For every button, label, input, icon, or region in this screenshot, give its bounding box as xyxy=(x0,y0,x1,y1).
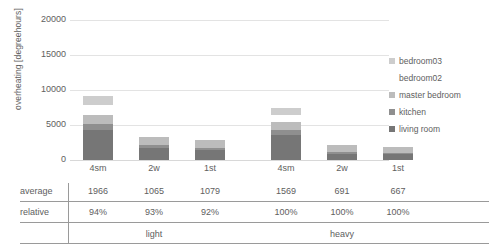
legend: bedroom03bedroom02master bedroomkitchenl… xyxy=(389,52,489,137)
table-cell: 93% xyxy=(126,207,182,217)
stacked-bar xyxy=(195,140,225,160)
legend-item[interactable]: bedroom03 xyxy=(389,52,489,69)
table-row-label: relative xyxy=(20,207,66,217)
bar-segment xyxy=(327,145,357,152)
legend-swatch-icon xyxy=(389,75,395,81)
bar-segment xyxy=(327,154,357,160)
table-cell: 100% xyxy=(258,207,314,217)
bar-segment xyxy=(195,150,225,161)
table-cell: 1569 xyxy=(258,186,314,196)
x-tick-label: 4sm xyxy=(70,163,126,173)
table-cell: 100% xyxy=(314,207,370,217)
bar-segment xyxy=(139,148,169,160)
stacked-bar xyxy=(83,96,113,160)
bar-segment xyxy=(271,135,301,160)
legend-item[interactable]: master bedroom xyxy=(389,86,489,103)
legend-item-label: bedroom03 xyxy=(399,56,442,66)
legend-item[interactable]: bedroom02 xyxy=(389,69,489,86)
bar-segment xyxy=(271,122,301,130)
stacked-bar xyxy=(271,108,301,160)
y-tick-label: 5000 xyxy=(14,120,66,129)
y-tick-label: 0 xyxy=(14,155,66,164)
table-cell: 1966 xyxy=(70,186,126,196)
table-cell: 667 xyxy=(370,186,426,196)
bar-segment xyxy=(383,154,413,160)
table-row: average1966106510791569691667 xyxy=(0,183,489,203)
stacked-bar xyxy=(383,147,413,160)
table-cell: 100% xyxy=(370,207,426,217)
chart-figure: overheating [degreehours] 05000100001500… xyxy=(0,0,489,248)
bar-series-container xyxy=(70,20,389,160)
bar-segment xyxy=(271,108,301,115)
stacked-bar xyxy=(139,137,169,160)
legend-item-label: bedroom02 xyxy=(399,73,442,83)
table-cell: 691 xyxy=(314,186,370,196)
y-tick-label: 10000 xyxy=(14,85,66,94)
table-row: relative94%93%92%100%100%100% xyxy=(0,204,489,224)
y-tick-label: 20000 xyxy=(14,15,66,24)
table-group-label: heavy xyxy=(282,229,402,239)
table-cell: 1079 xyxy=(182,186,238,196)
legend-swatch-icon xyxy=(389,58,395,64)
x-tick-label: 2w xyxy=(314,163,370,173)
table-rule xyxy=(20,243,489,244)
gridline xyxy=(70,160,389,161)
stacked-bar xyxy=(327,145,357,160)
legend-item-label: master bedroom xyxy=(399,90,461,100)
table-rule-vertical xyxy=(68,183,69,243)
table-group-label: light xyxy=(94,229,214,239)
x-tick-label: 1st xyxy=(370,163,426,173)
legend-item[interactable]: kitchen xyxy=(389,103,489,120)
bar-segment xyxy=(139,137,169,146)
x-tick-label: 1st xyxy=(182,163,238,173)
bar-segment xyxy=(83,130,113,160)
table-cell: 94% xyxy=(70,207,126,217)
table-rule xyxy=(20,222,489,223)
bar-segment xyxy=(83,96,113,104)
table-row-label: average xyxy=(20,186,66,196)
y-tick-label: 15000 xyxy=(14,50,66,59)
legend-swatch-icon xyxy=(389,126,395,132)
bar-segment xyxy=(271,115,301,122)
legend-item[interactable]: living room xyxy=(389,120,489,137)
legend-item-label: kitchen xyxy=(399,107,426,117)
bar-segment xyxy=(83,115,113,124)
x-tick-label: 4sm xyxy=(258,163,314,173)
table-cell: 92% xyxy=(182,207,238,217)
summary-table: average1966106510791569691667relative94%… xyxy=(0,183,489,248)
legend-item-label: living room xyxy=(399,124,440,134)
x-tick-label: 2w xyxy=(126,163,182,173)
bar-segment xyxy=(195,140,225,148)
table-cell: 1065 xyxy=(126,186,182,196)
legend-swatch-icon xyxy=(389,109,395,115)
legend-swatch-icon xyxy=(389,92,395,98)
table-rule xyxy=(20,201,489,202)
bar-segment xyxy=(83,105,113,115)
